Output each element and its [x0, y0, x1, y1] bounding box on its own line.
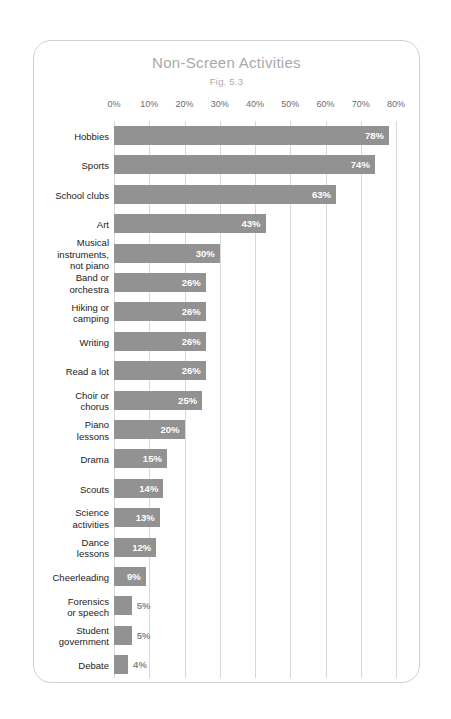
- bar-value-label: 26%: [114, 332, 201, 351]
- bar-value-label: 9%: [114, 567, 141, 586]
- category-label: Hiking or camping: [0, 302, 109, 325]
- bar-value-label: 5%: [137, 626, 151, 645]
- bar-row: Drama15%: [114, 444, 396, 473]
- bar-row: School clubs63%: [114, 180, 396, 209]
- bar-row: Hiking or camping26%: [114, 297, 396, 326]
- bar-value-label: 5%: [137, 596, 151, 615]
- bar-value-label: 43%: [114, 214, 261, 233]
- gridline: [396, 121, 397, 678]
- bar-value-label: 26%: [114, 302, 201, 321]
- x-tick-label: 50%: [281, 99, 299, 109]
- category-label: Science activities: [0, 507, 109, 530]
- bar-series: Hobbies78%Sports74%School clubs63%Art43%…: [114, 121, 396, 678]
- bar-value-label: 26%: [114, 361, 201, 380]
- category-label: Debate: [0, 660, 109, 672]
- bar-value-label: 20%: [114, 420, 180, 439]
- category-label: Art: [0, 219, 109, 231]
- bar-value-label: 63%: [114, 185, 331, 204]
- bar-value-label: 12%: [114, 538, 151, 557]
- x-tick-label: 40%: [246, 99, 264, 109]
- x-tick-label: 70%: [352, 99, 370, 109]
- category-label: Read a lot: [0, 366, 109, 378]
- category-label: Musical instruments, not piano: [0, 237, 109, 272]
- category-label: Hobbies: [0, 131, 109, 143]
- bar: [114, 596, 132, 615]
- bar-value-label: 4%: [133, 655, 147, 674]
- category-label: Dance lessons: [0, 537, 109, 560]
- category-label: Scouts: [0, 484, 109, 496]
- bar-row: Art43%: [114, 209, 396, 238]
- x-tick-label: 60%: [316, 99, 334, 109]
- bar-row: Sports74%: [114, 150, 396, 179]
- bar-value-label: 78%: [114, 126, 384, 145]
- x-axis-tick-labels: 0%10%20%30%40%50%60%70%80%: [114, 99, 396, 113]
- bar-value-label: 26%: [114, 273, 201, 292]
- bar-value-label: 74%: [114, 155, 370, 174]
- bar-row: Student government5%: [114, 621, 396, 650]
- bar-value-label: 30%: [114, 244, 215, 263]
- x-tick-label: 80%: [387, 99, 405, 109]
- plot-area: 0%10%20%30%40%50%60%70%80% Hobbies78%Spo…: [114, 67, 396, 667]
- bar-row: Science activities13%: [114, 503, 396, 532]
- bar-value-label: 15%: [114, 449, 162, 468]
- bar-row: Hobbies78%: [114, 121, 396, 150]
- x-tick-label: 20%: [175, 99, 193, 109]
- category-label: Piano lessons: [0, 419, 109, 442]
- bar-row: Debate4%: [114, 650, 396, 679]
- category-label: Band or orchestra: [0, 272, 109, 295]
- category-label: Student government: [0, 625, 109, 648]
- bar-row: Scouts14%: [114, 474, 396, 503]
- category-label: Cheerleading: [0, 572, 109, 584]
- category-label: Forensics or speech: [0, 596, 109, 619]
- bar-row: Piano lessons20%: [114, 415, 396, 444]
- category-label: Sports: [0, 160, 109, 172]
- bar: [114, 655, 128, 674]
- bar-row: Cheerleading9%: [114, 562, 396, 591]
- category-label: Writing: [0, 337, 109, 349]
- category-label: Drama: [0, 454, 109, 466]
- category-label: Choir or chorus: [0, 390, 109, 413]
- bar-row: Musical instruments, not piano30%: [114, 239, 396, 268]
- category-label: School clubs: [0, 190, 109, 202]
- bar: [114, 626, 132, 645]
- bar-value-label: 13%: [114, 508, 155, 527]
- chart-card: Non-Screen Activities Fig. 5.3 0%10%20%3…: [33, 40, 420, 683]
- screenshot-root: Non-Screen Activities Fig. 5.3 0%10%20%3…: [0, 0, 451, 719]
- bar-row: Choir or chorus25%: [114, 386, 396, 415]
- bar-value-label: 25%: [114, 391, 197, 410]
- x-tick-label: 30%: [211, 99, 229, 109]
- bar-row: Read a lot26%: [114, 356, 396, 385]
- bar-row: Forensics or speech5%: [114, 591, 396, 620]
- bar-row: Band or orchestra26%: [114, 268, 396, 297]
- x-tick-label: 10%: [140, 99, 158, 109]
- bar-row: Writing26%: [114, 327, 396, 356]
- bar-value-label: 14%: [114, 479, 158, 498]
- bar-row: Dance lessons12%: [114, 533, 396, 562]
- x-tick-label: 0%: [107, 99, 120, 109]
